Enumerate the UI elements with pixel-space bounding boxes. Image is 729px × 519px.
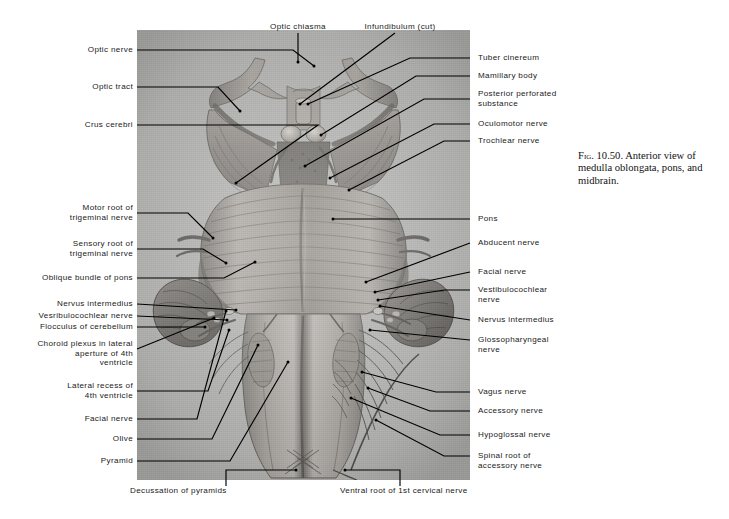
label-facial-nerve-left: Facial nerve: [3, 414, 133, 424]
label-vestibulocochlear-right: Vestibulocochlear nerve: [478, 285, 628, 304]
label-hypoglossal-nerve: Hypoglossal nerve: [478, 430, 628, 440]
label-vagus-nerve: Vagus nerve: [478, 387, 628, 397]
leader-infundibulum: [299, 33, 396, 106]
label-glossopharyngeal-nerve: Glossopharyngeal nerve: [478, 335, 628, 354]
leader-sensory-root-trigeminal: [137, 249, 228, 265]
figure-number: Fig. 10.50.: [578, 150, 623, 161]
leader-nervus-intermedius-right: [379, 305, 471, 321]
leader-flocculus: [137, 326, 207, 329]
leader-hypoglossal: [350, 397, 471, 436]
label-oculomotor-nerve: Oculomotor nerve: [478, 119, 628, 129]
label-choroid-plexus-lateral-aperture: Choroid plexus in lateral aperture of 4t…: [3, 339, 133, 368]
leader-posterior-perforated: [304, 99, 471, 168]
leader-optic-tract: [137, 87, 242, 113]
label-vestibulocochlear-left: Vesribulocochlear nerve: [3, 311, 133, 321]
leader-vagus: [361, 371, 471, 393]
label-olive: Olive: [3, 434, 133, 444]
label-lateral-recess-4th-ventricle: Lateral recess of 4th ventricle: [3, 381, 133, 400]
label-trochlear-nerve: Trochlear nerve: [478, 136, 628, 146]
label-crus-cerebri: Crus cerebri: [3, 120, 133, 130]
leader-mamillary-body: [320, 76, 471, 137]
label-oblique-bundle-pons: Oblique bundle of pons: [3, 273, 133, 283]
label-abducent-nerve: Abducent nerve: [478, 238, 628, 248]
label-nervus-intermedius-right: Nervus intermedius: [478, 315, 628, 325]
label-pons: Pons: [478, 214, 628, 224]
label-infundibulum-cut: Infundibulum (cut): [340, 22, 460, 32]
leader-accessory: [367, 387, 471, 412]
label-motor-root-trigeminal: Motor root of trigeminal nerve: [3, 203, 133, 222]
leader-abducent: [365, 243, 471, 284]
leader-vestibulocochlear-right: [377, 290, 471, 302]
label-nervus-intermedius-left: Nervus intermedius: [3, 299, 133, 309]
leader-tuber-cinereum: [307, 58, 471, 106]
leader-nervus-intermedius-left: [137, 304, 238, 312]
leader-trochlear: [348, 141, 471, 192]
label-optic-nerve: Optic nerve: [3, 45, 133, 55]
leader-optic-chiasma: [297, 33, 300, 64]
leader-oculomotor: [329, 124, 471, 180]
label-optic-tract: Optic tract: [3, 82, 133, 92]
label-flocculus-cerebellum: Flocculus of cerebellum: [3, 322, 133, 332]
label-tuber-cinereum: Tuber cinereum: [478, 53, 628, 63]
label-pyramid: Pyramid: [3, 456, 133, 466]
leader-decussation: [226, 469, 298, 487]
figure-caption: Fig. 10.50. Anterior view of medulla obl…: [578, 150, 726, 187]
label-facial-nerve-right: Facial nerve: [478, 267, 628, 277]
label-optic-chiasma: Optic chiasma: [248, 22, 348, 32]
leader-glossopharyngeal: [369, 329, 471, 341]
figure-page: Optic chiasma Infundibulum (cut) Optic n…: [0, 0, 729, 519]
leader-pons: [332, 218, 471, 221]
label-decussation-of-pyramids: Decussation of pyramids: [130, 486, 310, 496]
leader-optic-nerve: [137, 50, 316, 68]
leader-crus-cerebri: [137, 125, 318, 185]
leader-motor-root-trigeminal: [137, 213, 215, 240]
label-spinal-root-accessory-nerve: Spinal root of accessory nerve: [478, 451, 628, 470]
label-posterior-perforated-substance: Posterior perforated substance: [478, 89, 628, 108]
label-sensory-root-trigeminal: Sensory root of trigeminal nerve: [3, 239, 133, 258]
leader-spinal-root-accessory: [375, 419, 471, 457]
label-mamillary-body: Mamillary body: [478, 71, 628, 81]
leader-ventral-root-1st-cervical: [344, 469, 401, 487]
leader-choroid-plexus: [137, 317, 216, 350]
label-ventral-root-1st-cervical-nerve: Ventral root of 1st cervical nerve: [340, 486, 540, 496]
leader-facial-nerve-left: [137, 310, 228, 420]
leader-oblique-bundle-pons: [137, 261, 257, 279]
label-accessory-nerve: Accessory nerve: [478, 406, 628, 416]
leader-lateral-recess: [137, 329, 231, 392]
